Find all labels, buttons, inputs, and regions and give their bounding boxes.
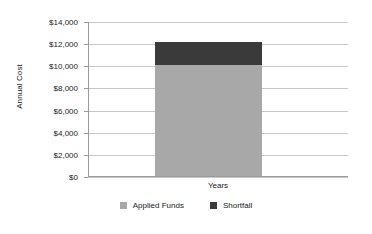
x-axis-line bbox=[88, 176, 348, 177]
bar-segment-applied-funds[interactable] bbox=[155, 65, 262, 176]
gridline bbox=[88, 22, 348, 23]
legend-swatch-icon bbox=[120, 202, 127, 209]
y-axis-tick-label: $0 bbox=[69, 173, 78, 182]
y-axis-tick-label: $14,000 bbox=[49, 18, 78, 27]
chart-legend: Applied FundsShortfall bbox=[0, 201, 372, 210]
y-axis-line bbox=[88, 22, 89, 177]
gridline bbox=[88, 177, 348, 178]
x-axis-category-label: Years bbox=[88, 181, 348, 190]
bar-stack-years[interactable] bbox=[155, 42, 262, 177]
bar-segment-shortfall[interactable] bbox=[155, 42, 262, 66]
y-axis-tick-label: $2,000 bbox=[54, 150, 78, 159]
plot-area bbox=[88, 22, 348, 177]
y-axis-tick-labels: $14,000$12,000$10,000$8,000$6,000$4,000$… bbox=[22, 22, 82, 177]
legend-label: Shortfall bbox=[223, 201, 252, 210]
y-axis-tick-label: $12,000 bbox=[49, 40, 78, 49]
y-axis-tick-mark bbox=[84, 177, 88, 178]
stacked-bar-chart: Annual Cost $14,000$12,000$10,000$8,000$… bbox=[0, 0, 372, 234]
y-axis-tick-label: $10,000 bbox=[49, 62, 78, 71]
legend-item-shortfall[interactable]: Shortfall bbox=[210, 201, 252, 210]
y-axis-tick-label: $4,000 bbox=[54, 128, 78, 137]
y-axis-tick-label: $8,000 bbox=[54, 84, 78, 93]
legend-swatch-icon bbox=[210, 202, 217, 209]
y-axis-tick-label: $6,000 bbox=[54, 106, 78, 115]
legend-item-applied-funds[interactable]: Applied Funds bbox=[120, 201, 184, 210]
legend-label: Applied Funds bbox=[133, 201, 184, 210]
